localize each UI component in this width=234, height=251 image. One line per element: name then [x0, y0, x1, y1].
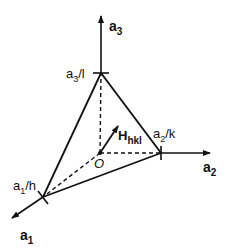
label-a3: a3: [109, 18, 123, 37]
diagram-canvas: a3 a3/l Hhkl a2/k O a2 a1/h a1: [0, 0, 234, 251]
label-origin: O: [94, 156, 104, 171]
dashed-o-a3: [100, 73, 101, 153]
tick-a1h: [38, 191, 48, 204]
label-hkl: Hhkl: [118, 128, 142, 146]
vector-hkl: [100, 126, 118, 153]
label-a1h: a1/h: [13, 178, 36, 196]
label-a2k: a2/k: [153, 126, 176, 144]
axis-a1: [12, 197, 43, 218]
label-a3l: a3/l: [66, 66, 85, 84]
dashed-o-a1: [43, 153, 100, 197]
label-a2: a2: [203, 159, 217, 178]
label-a1: a1: [20, 227, 34, 246]
